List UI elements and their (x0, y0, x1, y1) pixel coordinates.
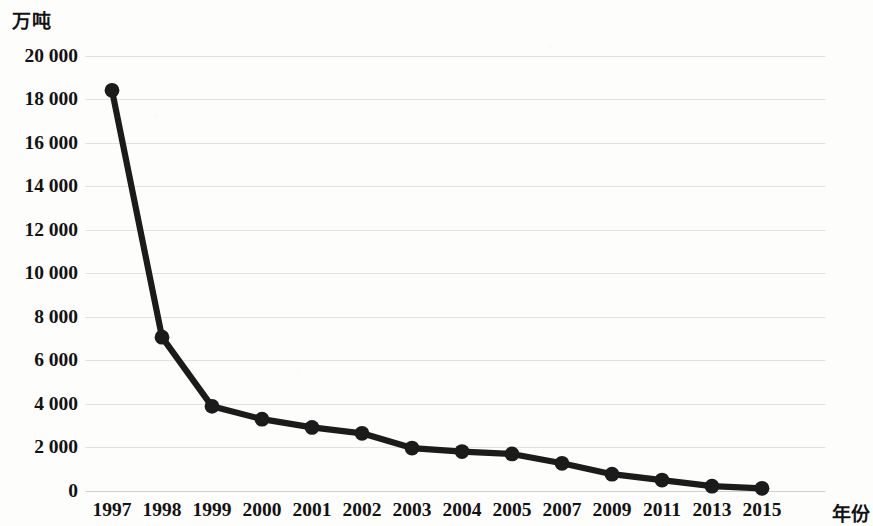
x-axis-tick-label: 2003 (393, 499, 432, 521)
x-axis-tick-label: 2002 (343, 499, 382, 521)
x-axis-tick-label: 2009 (593, 499, 632, 521)
x-axis-tick-label: 1998 (143, 499, 182, 521)
line-chart-figure: 万吨 02 0004 0006 0008 00010 00012 00014 0… (0, 0, 873, 526)
x-axis-tick-label: 2004 (443, 499, 482, 521)
x-axis-tick-label: 1997 (93, 499, 132, 521)
x-axis-tick-labels: 1997199819992000200120022003200420052007… (0, 0, 873, 526)
x-axis-tick-label: 2001 (293, 499, 332, 521)
x-axis-unit-label: 年份 (832, 499, 870, 526)
x-axis-tick-label: 2007 (543, 499, 582, 521)
x-axis-tick-label: 2013 (693, 499, 732, 521)
x-axis-tick-label: 2005 (493, 499, 532, 521)
x-axis-tick-label: 2011 (643, 499, 681, 521)
x-axis-tick-label: 1999 (193, 499, 232, 521)
x-axis-tick-label: 2015 (743, 499, 782, 521)
x-axis-tick-label: 2000 (243, 499, 282, 521)
